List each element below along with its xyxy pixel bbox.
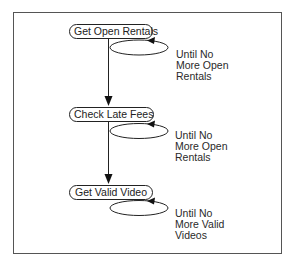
node-get-open-rentals: Get Open Rentals [69, 24, 153, 39]
loop-note-n3: Until No More Valid Videos [175, 208, 224, 241]
loop-note-line: Rentals [175, 152, 228, 163]
loop-note-n1: Until No More Open Rentals [176, 49, 229, 82]
node-check-late-fees: Check Late Fees [69, 107, 154, 122]
connectors-layer [0, 0, 297, 270]
edge-n1-n2 [105, 39, 113, 106]
loop-n3 [110, 198, 168, 216]
loop-note-line: Videos [175, 230, 224, 241]
flow-diagram: Get Open Rentals Check Late Fees Get Val… [0, 0, 297, 270]
loop-n1 [110, 37, 168, 55]
arrowhead-icon [105, 96, 113, 106]
loop-note-n2: Until No More Open Rentals [175, 130, 228, 163]
loop-note-line: Rentals [176, 71, 229, 82]
arrowhead-icon [105, 174, 113, 184]
edge-n2-n3 [105, 122, 113, 184]
loop-n2 [110, 121, 168, 139]
node-get-valid-video: Get Valid Video [69, 185, 153, 200]
